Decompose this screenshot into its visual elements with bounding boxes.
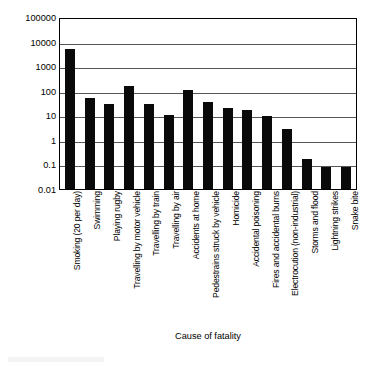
x-label-slot: Travelling by train [138,191,158,323]
bar-slot [257,19,277,189]
x-label-slot: Homicide [218,191,238,323]
y-tick-label: 100000 [25,14,56,23]
bar-slot [159,19,179,189]
bar [164,115,174,189]
bar-slot [178,19,198,189]
x-label-slot: Electrocution (non-industrial) [277,191,297,323]
x-label-slot: Storms and flood [297,191,317,323]
x-axis-title: Cause of fatality [59,330,357,342]
bar-slot [198,19,218,189]
x-label-slot: Smoking (20 per day) [59,191,79,323]
x-label-slot: Travelling by air [158,191,178,323]
x-label-slot: Accidental poisoning [238,191,258,323]
x-axis-tick-labels: Smoking (20 per day)SwimmingPlaying rugb… [59,191,357,323]
bar-slot [80,19,100,189]
y-tick-label: 0.01 [38,186,56,195]
bar [341,167,351,189]
y-tick-label: 100 [41,87,56,96]
x-label-slot: Pedestrains struck by vehicle [198,191,218,323]
x-label-slot: Snake bite [337,191,357,323]
bar-slot [336,19,356,189]
bar [302,159,312,189]
bar [282,129,292,189]
bar-slot [317,19,337,189]
bar-slot [99,19,119,189]
y-tick-label: 10 [46,112,56,121]
bar-slot [277,19,297,189]
scan-artifact [8,357,104,362]
bar [104,104,114,189]
y-tick-label: 10000 [30,38,56,47]
bar [144,104,154,189]
bar-slot [218,19,238,189]
y-tick-label: 0.1 [43,161,56,170]
x-label-slot: Travelling by motor vehicle [119,191,139,323]
x-label-slot: Playing rugby [99,191,119,323]
bar [262,116,272,189]
y-tick-label: 1000 [36,63,56,72]
bar-series [60,19,356,189]
bar [203,102,213,189]
x-label-slot: Accidents at home [178,191,198,323]
bar [242,110,252,189]
x-label-slot: Swimming [79,191,99,323]
bar-slot [60,19,80,189]
bar [223,108,233,189]
x-label-slot: Fires and accidental burns [258,191,278,323]
bar-slot [119,19,139,189]
bar [183,90,193,189]
x-label-slot: Lightning strikes [317,191,337,323]
bar [321,167,331,189]
x-tick-label: Snake bite [351,191,360,230]
bar-slot [238,19,258,189]
y-axis-tick-labels: 1000001000010001001010.10.01 [18,18,58,190]
bar [85,98,95,189]
bar [124,86,134,189]
bar-slot [139,19,159,189]
bar [65,49,75,189]
plot-area [59,18,357,190]
fatality-risk-bar-chart: Fatality risk (per million per year) 100… [0,0,374,370]
bar-slot [297,19,317,189]
y-tick-label: 1 [51,136,56,145]
